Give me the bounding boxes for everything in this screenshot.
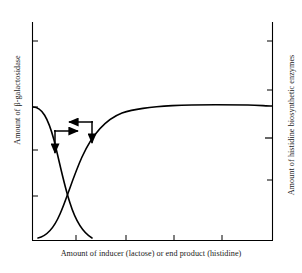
enzyme-regulation-figure: Amount of inducer (lactose) or end produ… — [0, 0, 302, 273]
plot-canvas — [0, 0, 302, 273]
right-axis-ticks — [265, 41, 273, 180]
bottom-axis-ticks — [76, 235, 222, 241]
repression-arrow-pair — [69, 121, 93, 143]
rising-curve — [38, 105, 272, 238]
y-axis-left-label: Amount of β-galactosidase — [14, 0, 22, 200]
falling-curve — [33, 107, 92, 238]
induction-arrow-pair — [54, 130, 78, 153]
x-axis-label: Amount of inducer (lactose) or end produ… — [0, 250, 302, 258]
y-axis-right-label: Amount of histidine biosynthetic enzymes — [288, 10, 296, 240]
left-axis-ticks — [33, 41, 39, 196]
